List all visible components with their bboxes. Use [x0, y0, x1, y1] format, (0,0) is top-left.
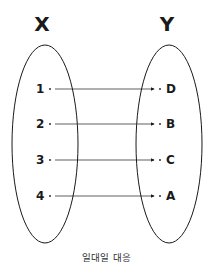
set-x-ellipse [12, 45, 78, 243]
mapping-row: 1 D [36, 82, 176, 96]
y-element: D [166, 82, 176, 96]
y-element: A [166, 189, 176, 203]
x-element: 4 [36, 189, 44, 203]
set-y-ellipse [136, 45, 202, 243]
x-element: 3 [36, 153, 44, 167]
y-element: C [166, 153, 175, 167]
y-element: B [166, 117, 175, 131]
mapping-row: 4 A [36, 189, 176, 203]
diagram-caption: 일대일 대응 [0, 250, 213, 264]
mapping-row: 2 B [36, 117, 175, 131]
x-element: 1 [36, 82, 44, 96]
mapping-diagram: 1 D 2 B 3 C 4 A [0, 0, 213, 279]
x-element: 2 [36, 117, 44, 131]
mapping-row: 3 C [36, 153, 175, 167]
